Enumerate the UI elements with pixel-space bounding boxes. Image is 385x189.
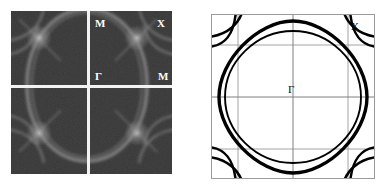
label-X-top: X	[157, 18, 165, 29]
label-M-top: M	[95, 18, 105, 29]
label-gamma-right: Γ	[288, 84, 294, 95]
arpes-intensity-map-panel: M X Γ M	[11, 11, 172, 174]
label-gamma-center: Γ	[95, 71, 102, 82]
crosshair-vertical	[87, 11, 90, 174]
arpes-intensity-svg	[11, 11, 172, 174]
label-X-corner: X	[351, 21, 359, 32]
fermi-surface-svg	[212, 15, 374, 178]
vignette-overlay	[11, 11, 172, 174]
crosshair-horizontal	[11, 85, 172, 88]
label-M-right: M	[158, 71, 168, 82]
figure-root: M X Γ M	[0, 0, 385, 189]
calculated-fermi-surface-panel: X Γ	[211, 14, 375, 179]
